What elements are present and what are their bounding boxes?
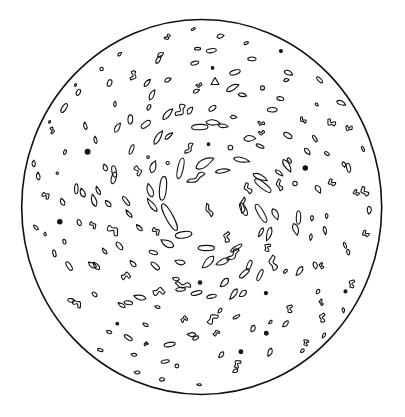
dot [85, 149, 90, 154]
dot [264, 292, 267, 295]
dot [344, 290, 347, 293]
dot [264, 331, 268, 335]
background [0, 0, 405, 417]
vortex-drawing [0, 0, 405, 417]
dot [116, 322, 119, 325]
dot [207, 143, 210, 146]
dot [239, 350, 243, 354]
dot [198, 281, 202, 285]
dot [279, 50, 282, 53]
dot [58, 220, 62, 224]
dot [303, 166, 307, 170]
dot [211, 67, 214, 70]
